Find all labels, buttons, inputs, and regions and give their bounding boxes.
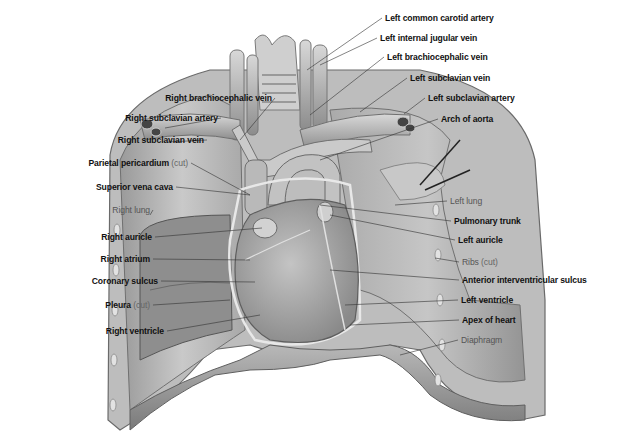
left-carotid-vessel xyxy=(300,40,311,130)
label-text: Right ventricle xyxy=(106,326,164,336)
label-suffix: (cut) xyxy=(169,158,188,168)
label-right-lung: Right lung xyxy=(112,205,150,215)
label-suffix: (cut) xyxy=(131,300,150,310)
label-text: Pleura xyxy=(105,300,131,310)
label-text: Apex of heart xyxy=(462,315,516,325)
label-text: Left brachiocephalic vein xyxy=(387,52,488,62)
right-auricle-shape xyxy=(253,218,277,238)
label-right-auricle: Right auricle xyxy=(101,232,152,242)
label-superior-vena-cava: Superior vena cava xyxy=(96,182,173,192)
label-left-subclavian-artery: Left subclavian artery xyxy=(428,93,515,103)
label-coronary-sulcus: Coronary sulcus xyxy=(92,276,158,286)
leader-line-left-internal-jugular-vein xyxy=(320,38,377,65)
left-auricle-shape xyxy=(317,202,333,222)
leader-line-left-common-carotid-artery xyxy=(307,18,382,70)
label-text: Left subclavian artery xyxy=(428,93,515,103)
label-right-atrium: Right atrium xyxy=(101,254,150,264)
label-right-ventricle: Right ventricle xyxy=(106,326,164,336)
label-arch-of-aorta: Arch of aorta xyxy=(441,114,493,124)
label-text: Coronary sulcus xyxy=(92,276,158,286)
label-text: Right atrium xyxy=(101,254,150,264)
label-parietal-pericardium: Parietal pericardium (cut) xyxy=(88,158,188,168)
label-text: Parietal pericardium xyxy=(88,158,169,168)
label-left-ventricle: Left ventricle xyxy=(461,295,513,305)
label-right-subclavian-artery: Right subclavian artery xyxy=(125,113,218,123)
label-left-subclavian-vein: Left subclavian vein xyxy=(410,73,490,83)
label-right-brachiocephalic-vein: Right brachiocephalic vein xyxy=(165,93,272,103)
label-left-internal-jugular-vein: Left internal jugular vein xyxy=(380,33,477,43)
thoracic-illustration xyxy=(0,0,643,441)
label-text: Left internal jugular vein xyxy=(380,33,477,43)
label-text: Right subclavian artery xyxy=(125,113,218,123)
label-left-lung: Left lung xyxy=(450,196,482,206)
label-text: Left common carotid artery xyxy=(385,13,494,23)
label-ribs: Ribs (cut) xyxy=(462,257,498,267)
label-right-subclavian-vein: Right subclavian vein xyxy=(118,135,204,145)
label-text: Right brachiocephalic vein xyxy=(165,93,272,103)
label-pulmonary-trunk: Pulmonary trunk xyxy=(454,216,521,226)
label-diaphragm: Diaphragm xyxy=(461,335,502,345)
label-left-common-carotid-artery: Left common carotid artery xyxy=(385,13,494,23)
label-text: Right lung xyxy=(112,205,150,215)
label-text: Anterior interventricular sulcus xyxy=(462,275,587,285)
label-left-brachiocephalic-vein: Left brachiocephalic vein xyxy=(387,52,488,62)
label-text: Left lung xyxy=(450,196,482,206)
label-text: Left ventricle xyxy=(461,295,513,305)
label-text: Right auricle xyxy=(101,232,152,242)
left-vessel-lumen-2 xyxy=(405,124,415,132)
label-text: Right subclavian vein xyxy=(118,135,204,145)
label-text: Diaphragm xyxy=(461,335,502,345)
label-text: Ribs xyxy=(462,257,479,267)
label-pleura: Pleura (cut) xyxy=(105,300,150,310)
label-anterior-interventricular-sulcus: Anterior interventricular sulcus xyxy=(462,275,587,285)
label-apex-of-heart: Apex of heart xyxy=(462,315,516,325)
label-text: Arch of aorta xyxy=(441,114,493,124)
label-text: Left subclavian vein xyxy=(410,73,490,83)
label-text: Left auricle xyxy=(458,235,503,245)
heart-anatomy-diagram: Right brachiocephalic veinRight subclavi… xyxy=(0,0,643,441)
label-text: Pulmonary trunk xyxy=(454,216,521,226)
label-text: Superior vena cava xyxy=(96,182,173,192)
label-suffix: (cut) xyxy=(479,257,498,267)
label-left-auricle: Left auricle xyxy=(458,235,503,245)
